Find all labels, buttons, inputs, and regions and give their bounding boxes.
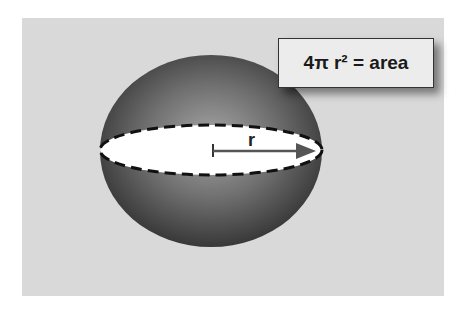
formula-text: 4π r² = area (304, 52, 409, 74)
formula-box: 4π r² = area (278, 38, 434, 88)
radius-label: r (248, 130, 255, 150)
